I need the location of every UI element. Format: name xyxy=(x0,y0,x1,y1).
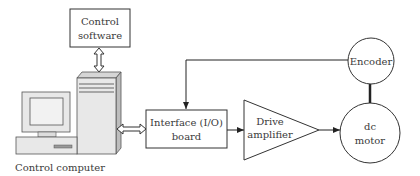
dc-motor-label-2: motor xyxy=(355,135,386,146)
interface-board-label-2: board xyxy=(172,131,202,142)
dc-motor-label-1: dc xyxy=(364,121,376,132)
diagram-canvas: Control software Control computer Interf… xyxy=(0,0,420,176)
control-software-label-1: Control xyxy=(81,16,119,27)
drive-amplifier-block: Drive amplifier xyxy=(244,100,319,160)
control-computer-label: Control computer xyxy=(15,162,105,173)
computer-interface-double-arrow xyxy=(117,124,146,134)
control-software-label-2: software xyxy=(78,30,122,41)
software-computer-double-arrow xyxy=(94,48,104,72)
interface-board-block: Interface (I/O) board xyxy=(146,110,227,148)
control-software-block: Control software xyxy=(70,9,130,47)
encoder-feedback-arrow xyxy=(186,60,348,109)
drive-amplifier-label-2: amplifier xyxy=(247,129,293,140)
control-computer-icon xyxy=(16,72,121,154)
drive-amplifier-label-1: Drive xyxy=(256,116,284,127)
encoder-block: Encoder xyxy=(348,38,394,84)
interface-board-label-1: Interface (I/O) xyxy=(150,117,223,128)
dc-motor-block: dc motor xyxy=(340,103,400,163)
encoder-label: Encoder xyxy=(350,56,393,67)
